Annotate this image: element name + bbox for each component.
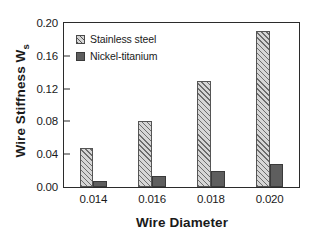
- chart-legend: Stainless steelNickel-titanium: [76, 32, 157, 66]
- legend-label: Stainless steel: [90, 33, 156, 45]
- y-axis-title: Wire Stiffness Ws: [13, 11, 31, 191]
- chart-figure: Wire Stiffness Ws Wire Diameter 0.000.04…: [0, 0, 320, 240]
- x-tick-label: 0.018: [197, 193, 225, 205]
- y-tick-mark: [64, 154, 70, 155]
- plot-inner: 0.000.040.080.120.160.20 0.0140.0160.018…: [64, 23, 299, 187]
- y-tick-label: 0.04: [36, 148, 58, 160]
- legend-label: Nickel-titanium: [90, 50, 157, 62]
- y-tick-label: 0.12: [36, 83, 58, 95]
- bar-niti-0.020: [270, 164, 284, 187]
- bar-niti-0.016: [152, 176, 166, 187]
- y-tick-mark: [64, 55, 70, 56]
- legend-swatch-icon: [76, 52, 85, 61]
- y-tick-label: 0.08: [36, 115, 58, 127]
- x-tick-label: 0.020: [256, 193, 284, 205]
- y-tick-label: 0.16: [36, 50, 58, 62]
- x-tick-label: 0.016: [138, 193, 166, 205]
- x-axis-title: Wire Diameter: [63, 215, 301, 230]
- bar-steel-0.020: [256, 31, 270, 187]
- bar-steel-0.016: [138, 121, 152, 187]
- y-tick-label: 0.00: [36, 181, 58, 193]
- legend-swatch-icon: [76, 35, 85, 44]
- y-tick-mark: [64, 88, 70, 89]
- bar-niti-0.014: [93, 181, 107, 187]
- bar-niti-0.018: [211, 171, 225, 187]
- y-tick-label: 0.20: [36, 17, 58, 29]
- x-tick-label: 0.014: [79, 193, 107, 205]
- bar-steel-0.014: [80, 148, 94, 187]
- y-tick-mark: [64, 121, 70, 122]
- y-axis-title-subscript: s: [20, 44, 31, 49]
- plot-area: 0.000.040.080.120.160.20 0.0140.0160.018…: [63, 22, 300, 188]
- legend-item-steel[interactable]: Stainless steel: [76, 32, 157, 46]
- y-axis-title-text: Wire Stiffness W: [13, 50, 28, 158]
- bar-steel-0.018: [197, 81, 211, 187]
- legend-item-niti[interactable]: Nickel-titanium: [76, 49, 157, 63]
